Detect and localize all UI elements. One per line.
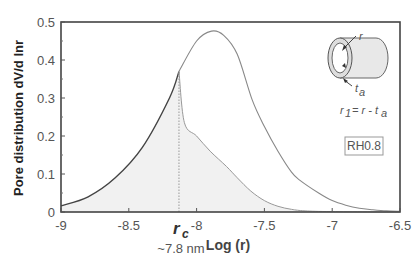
x-tick-label: -7.5 — [253, 218, 275, 233]
pore-inset-diagram: r t a r 1 = r - t a — [328, 30, 388, 119]
y-tick-label: 0.1 — [37, 167, 55, 182]
y-tick-label: 0.4 — [37, 53, 55, 68]
inset-ta-sub: a — [359, 86, 365, 98]
x-axis-label: Log (r) — [206, 237, 250, 253]
x-tick-label: -7 — [326, 218, 338, 233]
condition-badge: RH0.8 — [345, 137, 383, 155]
y-tick-label: 0.5 — [37, 15, 55, 30]
y-tick-label: 0.3 — [37, 91, 55, 106]
inset-formula-rhs-sub: a — [381, 107, 387, 119]
filled-area-left — [61, 71, 179, 212]
y-tick-label: 0.2 — [37, 129, 55, 144]
rc-label: r — [173, 219, 181, 238]
x-tick-label: -8.5 — [118, 218, 140, 233]
rc-subscript: c — [182, 227, 189, 241]
x-tick-label: -9 — [55, 218, 67, 233]
x-tick-label: -6.5 — [389, 218, 411, 233]
y-axis-label: Pore distribution dV/d lnr — [11, 40, 26, 196]
chart: -9-8.5-8-7.5-7-6.500.10.20.30.40.5 Pore … — [0, 0, 416, 268]
x-tick-label: -8 — [191, 218, 203, 233]
inset-formula-rhs: = r - t — [349, 104, 379, 116]
rc-value: ~7.8 nm — [157, 241, 204, 256]
y-tick-label: 0 — [48, 205, 55, 220]
condition-badge-label: RH0.8 — [347, 139, 381, 153]
